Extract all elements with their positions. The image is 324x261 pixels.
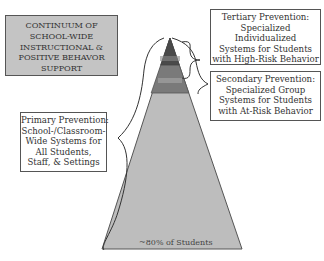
secondary-line: Systems for Students: [211, 95, 320, 106]
tertiary-line: with High-Risk Behavior: [211, 54, 320, 65]
title-line: SCHOOL-WIDE: [6, 31, 117, 42]
tertiary-brace: [182, 42, 200, 79]
title-line: POSITIVE BEHAVOR: [6, 52, 117, 63]
secondary-prevention-box: Secondary Prevention: Specialized Group …: [210, 71, 321, 121]
secondary-line: with At-Risk Behavior: [211, 106, 320, 117]
primary-line: Primary Prevention:: [21, 115, 106, 126]
primary-prevention-box: Primary Prevention: School-/Classroom- W…: [20, 112, 107, 172]
tertiary-line: Specialized: [211, 23, 320, 34]
primary-line: Wide Systems for: [21, 136, 106, 147]
secondary-line: Specialized Group: [211, 85, 320, 96]
tertiary-line: Systems for Students: [211, 44, 320, 55]
secondary-line: Secondary Prevention:: [211, 74, 320, 85]
title-line: SUPPORT: [6, 63, 117, 74]
primary-line: All Students,: [21, 147, 106, 158]
base-percentage-label: ~80% of Students: [139, 238, 213, 247]
primary-line: Staff, & Settings: [21, 157, 106, 168]
tertiary-line: Tertiary Prevention:: [211, 12, 320, 23]
diagram-title-box: CONTINUUM OF SCHOOL-WIDE INSTRUCTIONAL &…: [5, 15, 118, 76]
primary-line: School-/Classroom-: [21, 126, 106, 137]
tertiary-prevention-box: Tertiary Prevention: Specialized Individ…: [210, 9, 321, 65]
title-line: CONTINUUM OF: [6, 20, 117, 31]
tertiary-line: Individualized: [211, 33, 320, 44]
title-line: INSTRUCTIONAL &: [6, 42, 117, 53]
